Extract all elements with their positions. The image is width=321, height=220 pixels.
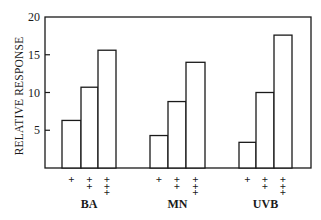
plus-marker-icon: + xyxy=(262,180,268,192)
bar-uvb-1 xyxy=(239,142,256,168)
bars xyxy=(62,35,292,168)
y-axis-label: RELATIVE RESPONSE xyxy=(13,37,25,156)
y-tick-label: 10 xyxy=(28,86,40,100)
bar-uvb-3 xyxy=(274,35,292,168)
plus-marker-icon: + xyxy=(280,186,286,198)
bar-ba-3 xyxy=(98,50,116,168)
bar-mn-1 xyxy=(150,136,168,168)
bar-ba-1 xyxy=(62,120,81,168)
plus-marker-icon: + xyxy=(192,186,198,198)
bar-uvb-2 xyxy=(256,93,274,169)
plus-marker-icon: + xyxy=(244,173,250,185)
plus-marker-icon: + xyxy=(174,180,180,192)
subgroup-markers: ++++++++++++++++++ xyxy=(68,173,286,198)
bar-mn-3 xyxy=(186,62,205,168)
chart-canvas: 5101520 ++++++++++++++++++ BAMNUVB RELAT… xyxy=(0,0,321,220)
category-labels: BAMNUVB xyxy=(81,197,279,211)
plus-marker-icon: + xyxy=(156,173,162,185)
y-tick-label: 15 xyxy=(28,48,40,62)
bar-ba-2 xyxy=(81,87,98,168)
category-label-ba: BA xyxy=(81,197,98,211)
plus-marker-icon: + xyxy=(68,173,74,185)
bar-mn-2 xyxy=(168,102,186,168)
category-label-uvb: UVB xyxy=(253,197,278,211)
plus-marker-icon: + xyxy=(86,180,92,192)
plus-marker-icon: + xyxy=(104,186,110,198)
bar-chart: 5101520 ++++++++++++++++++ BAMNUVB RELAT… xyxy=(0,0,321,220)
y-tick-label: 20 xyxy=(28,10,40,24)
category-label-mn: MN xyxy=(168,197,188,211)
y-tick-label: 5 xyxy=(34,123,40,137)
